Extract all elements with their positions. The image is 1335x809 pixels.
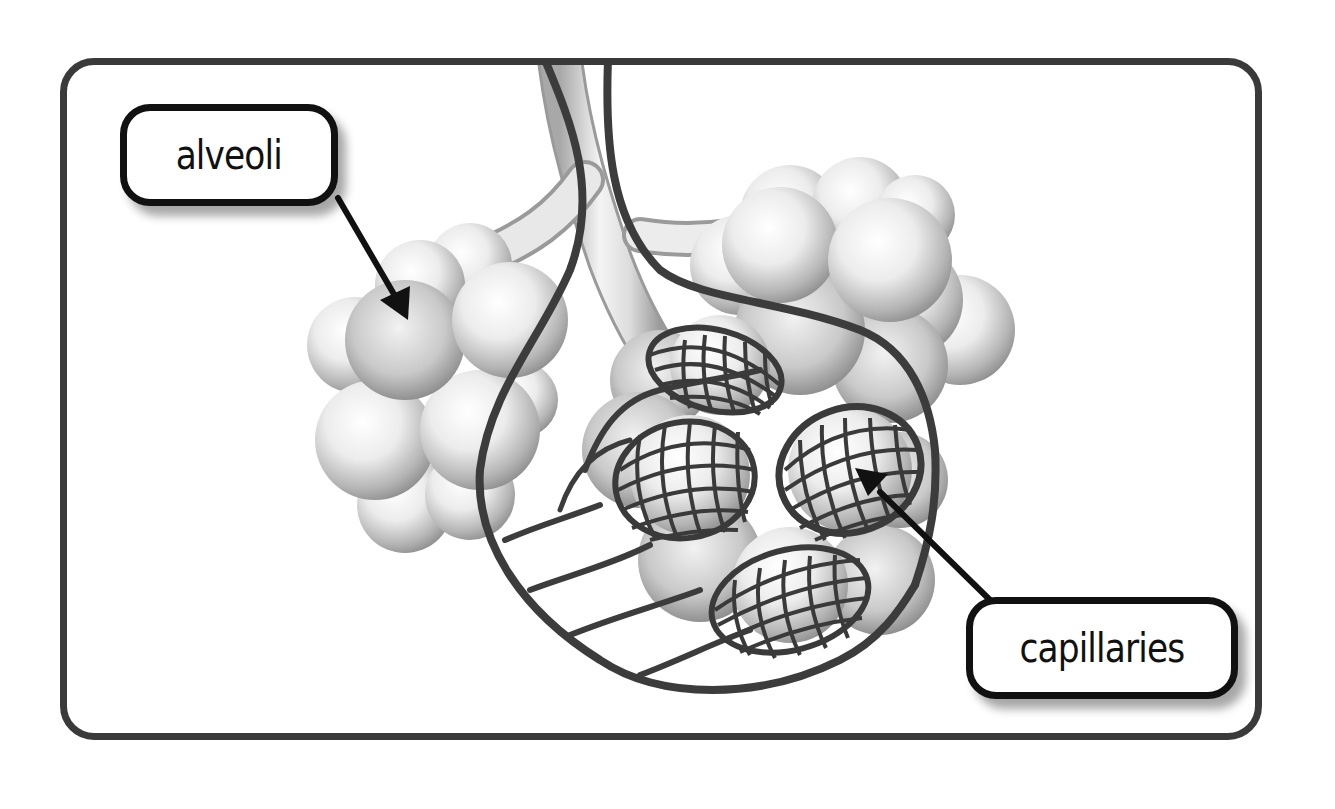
alveoli-cluster-left [307,223,568,553]
label-capillaries: capillaries [966,597,1238,699]
label-alveoli-text: alveoli [176,132,282,178]
label-capillaries-text: capillaries [1020,625,1185,671]
label-alveoli: alveoli [120,104,338,206]
